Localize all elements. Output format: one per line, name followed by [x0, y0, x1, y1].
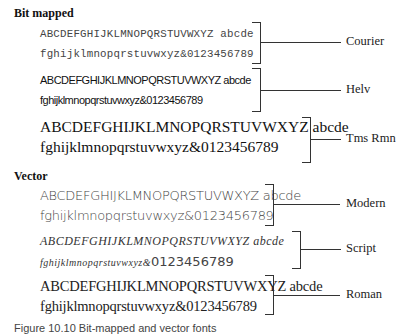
bracket [265, 275, 274, 315]
connector-line [301, 249, 341, 250]
sample-line-2: fghijklmnopqrstuvwxyz&0123456789 [40, 251, 284, 273]
font-label-helv: Helv [346, 82, 370, 97]
script-letters: fghijklmnopqrstuvwxyz& [40, 257, 151, 268]
sample-line-2: fghijklmnopqrstuvwxyz&0123456789 [40, 44, 254, 64]
sample-line-1: ABCDEFGHIJKLMNOPQRSTUVWXYZ abcde [40, 231, 284, 251]
sample-line-2: fghijklmnopqrstuvwxyz&0123456789 [40, 296, 322, 316]
font-sample-modern: ABCDEFGHIJKLMNOPQRSTUVWXYZ abcde fghijkl… [40, 186, 301, 226]
font-label-modern: Modern [346, 196, 386, 211]
figure-caption: Figure 10.10 Bit-mapped and vector fonts [14, 322, 216, 334]
font-label-courier: Courier [346, 34, 384, 49]
connector-line [274, 204, 340, 205]
font-sample-script: ABCDEFGHIJKLMNOPQRSTUVWXYZ abcde fghijkl… [40, 231, 284, 273]
bracket [265, 184, 274, 226]
sample-line-1: ABCDEFGHIJKLMNOPQRSTUVWXYZ abcde [40, 24, 254, 44]
font-label-roman: Roman [346, 287, 382, 302]
sample-line-1: ABCDEFGHIJKLMNOPQRSTUVWXYZ abcde [40, 276, 322, 296]
sample-line-2: fghijklmnopqrstuvwxyz&0123456789 [40, 206, 301, 226]
script-digits: 0123456789 [151, 254, 234, 269]
connector-line [261, 90, 341, 91]
connector-line [274, 295, 340, 296]
bracket [252, 68, 261, 112]
font-sample-courier: ABCDEFGHIJKLMNOPQRSTUVWXYZ abcde fghijkl… [40, 24, 254, 64]
font-sample-roman: ABCDEFGHIJKLMNOPQRSTUVWXYZ abcde fghijkl… [40, 276, 322, 316]
sample-line-2: fghijklmnopqrstuvwxyz&0123456789 [40, 90, 251, 110]
connector-line [261, 42, 341, 43]
sample-line-1: ABCDEFGHIJKLMNOPQRSTUVWXYZ abcde [40, 70, 251, 90]
bracket [302, 117, 311, 163]
sample-line-1: ABCDEFGHIJKLMNOPQRSTUVWXYZ abcde [40, 186, 301, 206]
bracket [292, 231, 301, 269]
font-sample-helv: ABCDEFGHIJKLMNOPQRSTUVWXYZ abcde fghijkl… [40, 70, 251, 110]
font-label-tms-rmn: Tms Rmn [346, 131, 396, 146]
bracket [252, 22, 261, 64]
section-heading-bitmapped: Bit mapped [14, 6, 74, 21]
connector-line [311, 139, 341, 140]
font-label-script: Script [346, 241, 376, 256]
section-heading-vector: Vector [14, 169, 48, 184]
